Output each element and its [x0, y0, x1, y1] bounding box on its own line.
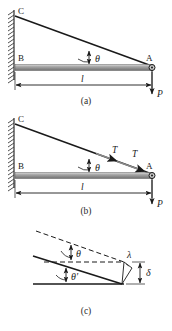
- angle-arc-theta: [61, 245, 72, 260]
- tension-arrow-lower: [117, 162, 145, 172]
- panel-b-drawing: T T θ C B A l P: [0, 108, 172, 210]
- tension-label-upper: T: [112, 145, 118, 155]
- hatched-wall: [8, 10, 14, 83]
- point-label-a: A: [146, 53, 153, 63]
- pin-joint-A: [149, 173, 155, 179]
- angle-arc-theta: [78, 51, 90, 64]
- angle-label-theta: θ: [95, 162, 100, 173]
- elongation-marker-lambda: [122, 262, 132, 284]
- angle-arc-theta: [78, 159, 90, 172]
- beam-BA: [15, 65, 153, 71]
- angle-label-theta: θ: [95, 53, 100, 64]
- length-label-l: l: [81, 182, 84, 192]
- panel-b-caption: (b): [0, 206, 172, 216]
- point-label-a: A: [146, 161, 153, 171]
- panel-c-drawing: θ θ′ λ δ: [0, 218, 172, 313]
- cable-CA: [15, 16, 152, 66]
- point-label-b: B: [18, 53, 24, 63]
- angle-label-theta-prime: θ′: [71, 271, 79, 282]
- angle-arc-theta-prime: [56, 268, 67, 282]
- deflection-label-delta: δ: [146, 267, 151, 278]
- panel-b: T T θ C B A l P (b): [0, 108, 172, 220]
- panel-c-caption: (c): [0, 306, 172, 316]
- beam-BA: [15, 173, 153, 179]
- panel-c: θ θ′ λ δ (c): [0, 218, 172, 331]
- length-label-l: l: [81, 74, 84, 84]
- point-label-c: C: [18, 6, 24, 16]
- tension-label-lower: T: [132, 149, 138, 159]
- pin-joint-A: [149, 65, 155, 71]
- panel-a: θ C B A l P (a): [0, 0, 172, 110]
- elongation-label-lambda: λ: [126, 249, 132, 260]
- point-label-b: B: [18, 161, 24, 171]
- hatched-wall: [8, 118, 14, 191]
- panel-a-drawing: θ C B A l P: [0, 0, 172, 100]
- point-label-c: C: [18, 114, 24, 124]
- angle-label-theta: θ: [76, 248, 81, 259]
- panel-a-caption: (a): [0, 96, 172, 106]
